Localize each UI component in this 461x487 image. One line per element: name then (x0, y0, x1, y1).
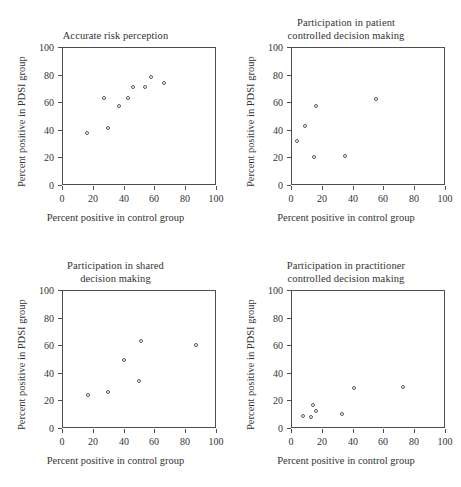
x-axis-tick-label: 100 (209, 436, 224, 447)
y-axis-tick-label: 20 (257, 395, 283, 406)
x-axis-title: Percent positive in control group (0, 455, 231, 466)
x-axis-tick (185, 186, 186, 190)
scatter-panel-1: Accurate risk perception0204060801000204… (0, 0, 231, 244)
x-axis-tick-label: 0 (289, 436, 294, 447)
y-axis-tick-label: 100 (28, 42, 54, 53)
y-axis-tick-label: 20 (28, 152, 54, 163)
x-axis-tick (62, 186, 63, 190)
y-axis-tick-label: 60 (28, 340, 54, 351)
panel-title-line: Participation in practitioner (231, 260, 461, 273)
y-axis-tick (58, 400, 62, 401)
y-axis-tick (287, 318, 291, 319)
y-axis-tick-label: 40 (257, 368, 283, 379)
y-axis-title: Percent positive in PDSI group (16, 56, 27, 187)
y-axis-tick-label: 20 (257, 152, 283, 163)
y-axis-tick (287, 75, 291, 76)
x-axis-tick-label: 80 (409, 436, 419, 447)
x-axis-tick-label: 0 (60, 436, 65, 447)
x-axis-title: Percent positive in control group (231, 212, 461, 223)
y-axis-tick-label: 40 (257, 125, 283, 136)
y-axis-tick-label: 20 (28, 395, 54, 406)
y-axis-tick-label: 40 (28, 368, 54, 379)
plot-area (291, 47, 445, 185)
x-axis-tick (93, 186, 94, 190)
panel-title: Participation in practitionercontrolled … (231, 260, 461, 285)
data-point (131, 85, 135, 89)
plot-area (291, 290, 445, 428)
y-axis-tick (58, 290, 62, 291)
x-axis-tick (62, 429, 63, 433)
y-axis-tick-label: 60 (28, 97, 54, 108)
x-axis-tick-label: 20 (88, 436, 98, 447)
y-axis-tick (287, 290, 291, 291)
x-axis-tick (154, 186, 155, 190)
y-axis-tick (58, 318, 62, 319)
panel-title-line: controlled decision making (231, 273, 461, 286)
y-axis-tick-label: 80 (257, 70, 283, 81)
plot-area (62, 47, 216, 185)
x-axis-tick (383, 186, 384, 190)
scatter-panel-3: Participation in shareddecision making02… (0, 244, 231, 487)
x-axis-tick-label: 40 (348, 436, 358, 447)
x-axis-tick-label: 20 (88, 193, 98, 204)
x-axis-title: Percent positive in control group (231, 455, 461, 466)
scatter-panel-4: Participation in practitionercontrolled … (231, 244, 461, 487)
y-axis-tick-label: 0 (28, 180, 54, 191)
x-axis-tick (124, 186, 125, 190)
x-axis-tick (322, 429, 323, 433)
y-axis-tick (58, 373, 62, 374)
data-point (139, 339, 143, 343)
x-axis-tick (216, 429, 217, 433)
data-point (314, 104, 318, 108)
x-axis-tick (93, 429, 94, 433)
x-axis-tick (353, 186, 354, 190)
data-point (340, 412, 344, 416)
y-axis-tick (287, 373, 291, 374)
x-axis-tick (414, 429, 415, 433)
x-axis-tick (414, 186, 415, 190)
y-axis-tick-label: 0 (28, 423, 54, 434)
y-axis-tick (58, 47, 62, 48)
y-axis-tick (287, 130, 291, 131)
plot-area (62, 290, 216, 428)
data-point (303, 124, 307, 128)
x-axis-tick-label: 100 (209, 193, 224, 204)
y-axis-title: Percent positive in PDSI group (16, 299, 27, 430)
y-axis-tick-label: 100 (257, 285, 283, 296)
x-axis-tick-label: 40 (119, 193, 129, 204)
x-axis-tick-label: 40 (348, 193, 358, 204)
x-axis-tick (124, 429, 125, 433)
panel-title: Participation in shareddecision making (0, 260, 231, 285)
scatter-plot-figure: Accurate risk perception0204060801000204… (0, 0, 461, 487)
y-axis-tick (58, 75, 62, 76)
y-axis-tick (58, 157, 62, 158)
y-axis-tick (58, 345, 62, 346)
data-point (309, 415, 313, 419)
y-axis-tick (287, 345, 291, 346)
x-axis-tick-label: 100 (438, 193, 453, 204)
x-axis-tick (216, 186, 217, 190)
x-axis-tick (291, 186, 292, 190)
data-point (295, 139, 299, 143)
x-axis-tick-label: 40 (119, 436, 129, 447)
x-axis-tick-label: 20 (317, 436, 327, 447)
x-axis-tick (291, 429, 292, 433)
x-axis-tick-label: 60 (149, 436, 159, 447)
x-axis-tick-label: 20 (317, 193, 327, 204)
scatter-panel-2: Participation in patientcontrolled decis… (231, 0, 461, 244)
y-axis-tick-label: 100 (28, 285, 54, 296)
y-axis-title: Percent positive in PDSI group (245, 299, 256, 430)
data-point (343, 154, 347, 158)
panel-title-line: Participation in patient (231, 17, 461, 30)
x-axis-tick-label: 60 (378, 436, 388, 447)
data-point (85, 131, 89, 135)
x-axis-tick-label: 0 (60, 193, 65, 204)
y-axis-tick-label: 40 (28, 125, 54, 136)
y-axis-tick (287, 400, 291, 401)
panel-title-line: controlled decision making (231, 30, 461, 43)
panel-title: Participation in patientcontrolled decis… (231, 17, 461, 42)
y-axis-tick (287, 47, 291, 48)
x-axis-tick-label: 60 (378, 193, 388, 204)
x-axis-tick-label: 80 (409, 193, 419, 204)
x-axis-tick (154, 429, 155, 433)
